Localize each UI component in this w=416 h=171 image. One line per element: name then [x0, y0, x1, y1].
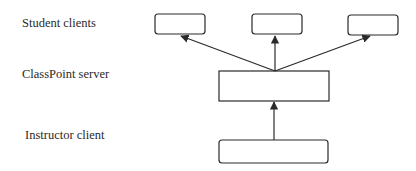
classpoint-server-box [219, 71, 329, 101]
diagram-graphics [0, 0, 416, 171]
arrow-server-to-student-3 [275, 36, 370, 71]
instructor-client-box [219, 140, 328, 163]
architecture-diagram: Student clients ClassPoint server Instru… [0, 0, 416, 171]
student-client-box-1 [155, 14, 205, 34]
arrow-server-to-student-1 [181, 36, 275, 71]
student-client-box-3 [348, 15, 398, 35]
student-client-box-2 [252, 14, 302, 34]
